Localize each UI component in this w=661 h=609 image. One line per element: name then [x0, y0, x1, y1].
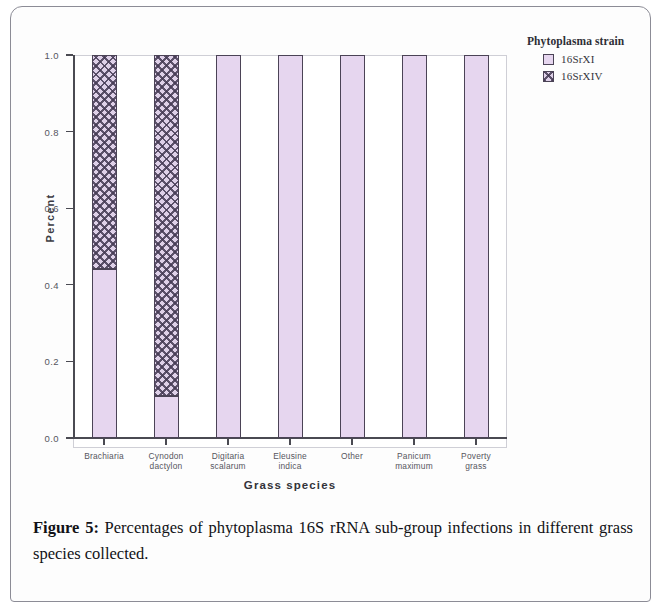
figure-caption-label: Figure 5: — [33, 518, 99, 537]
figure-caption-text: Percentages of phytoplasma 16S rRNA sub-… — [33, 518, 633, 563]
y-axis-tick-label: 1.0 — [25, 50, 59, 61]
y-axis-title: Percent — [44, 173, 56, 263]
x-axis-tick — [103, 438, 104, 445]
x-axis-tick — [227, 438, 228, 445]
x-axis-tick — [165, 438, 166, 445]
bar-segment — [402, 55, 427, 438]
bar-stack — [278, 55, 303, 438]
chart-legend: Phytoplasma strain 16SrXI16SrXIV — [527, 35, 649, 87]
x-axis-tick-label: Povertygrass — [440, 451, 512, 471]
legend-item: 16SrXIV — [543, 70, 649, 82]
y-axis-tick — [66, 131, 73, 132]
y-axis-tick-label: 0.2 — [25, 356, 59, 367]
y-axis-tick — [66, 361, 73, 362]
x-axis-tick-label-line: grass — [440, 461, 512, 471]
bar-stack — [216, 55, 241, 438]
bar-segment — [92, 55, 117, 269]
legend-item-label: 16SrXI — [561, 53, 595, 65]
bar-stack — [92, 55, 117, 438]
legend-swatch-icon — [543, 54, 554, 65]
bar-segment — [154, 396, 179, 438]
chart-area: 1.00.80.60.40.20.0 Percent BrachiariaCyn… — [11, 7, 652, 507]
legend-rows: 16SrXI16SrXIV — [527, 53, 649, 82]
bar-stack — [464, 55, 489, 438]
y-axis-tick — [66, 208, 73, 209]
x-axis-tick-label-line: indica — [254, 461, 326, 471]
x-axis-tick — [413, 438, 414, 445]
bar-segment — [464, 55, 489, 438]
x-axis-tick — [351, 438, 352, 445]
x-axis-tick — [289, 438, 290, 445]
bar-segment — [278, 55, 303, 438]
y-axis-tick-label: 0.4 — [25, 279, 59, 290]
y-axis-tick-label: 0.8 — [25, 126, 59, 137]
legend-title: Phytoplasma strain — [527, 35, 649, 47]
bar-segment — [216, 55, 241, 438]
y-axis-tick — [66, 437, 73, 438]
legend-item: 16SrXI — [543, 53, 649, 65]
bar-segment — [154, 55, 179, 396]
bar-segment — [92, 269, 117, 438]
figure-panel: 1.00.80.60.40.20.0 Percent BrachiariaCyn… — [10, 6, 651, 602]
bar-segment — [340, 55, 365, 438]
bar-stack — [340, 55, 365, 438]
y-axis-tick — [66, 54, 73, 55]
legend-item-label: 16SrXIV — [561, 70, 603, 82]
x-axis-tick-label-line: Poverty — [440, 451, 512, 461]
legend-swatch-icon — [543, 71, 554, 82]
x-axis-title: Grass species — [73, 479, 507, 491]
y-axis-tick — [66, 284, 73, 285]
bar-stack — [402, 55, 427, 438]
y-axis-tick-label: 0.0 — [25, 433, 59, 444]
figure-caption: Figure 5: Percentages of phytoplasma 16S… — [33, 515, 633, 567]
y-axis-line — [73, 55, 75, 438]
bar-stack — [154, 55, 179, 438]
x-axis-tick — [475, 438, 476, 445]
